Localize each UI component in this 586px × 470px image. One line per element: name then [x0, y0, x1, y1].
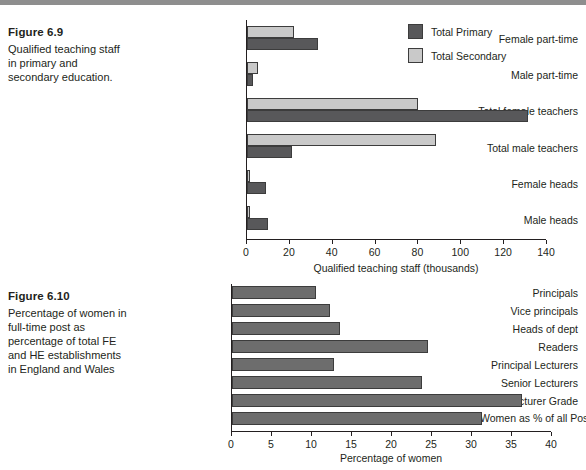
x-tick-label: 5 — [256, 438, 286, 450]
bar-primary-female-part-time — [247, 38, 318, 50]
x-tickmark — [417, 240, 418, 244]
bar-principals — [232, 286, 316, 299]
x-tick-label: 20 — [376, 438, 406, 450]
bar-readers — [232, 340, 428, 353]
bar-principal-lecturers — [232, 358, 334, 371]
x-tick-label: 25 — [416, 438, 446, 450]
x-tickmark — [503, 240, 504, 244]
bar-secondary-total-male-teachers — [247, 134, 436, 146]
x-tick-label: 0 — [216, 438, 246, 450]
bars-6-9 — [247, 26, 547, 240]
bar-senior-lecturers — [232, 376, 422, 389]
figure-6-10-caption: Figure 6.10 Percentage of women in full-… — [8, 290, 128, 376]
x-tickmark — [231, 432, 232, 436]
x-tick-label: 0 — [231, 246, 261, 258]
x-tickmark — [375, 240, 376, 244]
x-tickmark — [391, 432, 392, 436]
x-tickmark — [431, 432, 432, 436]
figure-6-9-description: Qualified teaching staff in primary and … — [8, 42, 128, 84]
figure-6-10-title: Figure 6.10 — [8, 290, 128, 302]
chart-6-9: Total Primary Total Secondary Female par… — [128, 18, 578, 273]
x-tick-label: 100 — [445, 246, 475, 258]
x-tickmark — [460, 240, 461, 244]
top-rule — [0, 0, 586, 5]
bar-secondary-total-female-teachers — [247, 98, 418, 110]
x-tick-label: 140 — [531, 246, 561, 258]
x-axis-title-6-9: Qualified teaching staff (thousands) — [296, 262, 496, 274]
bar-secondary-male-part-time — [247, 62, 258, 74]
bars-6-10 — [232, 286, 552, 432]
x-tickmark — [311, 432, 312, 436]
x-tickmark — [546, 240, 547, 244]
bar-primary-total-male-teachers — [247, 146, 292, 158]
bar-vice-principals — [232, 304, 330, 317]
bar-women-all-posts — [232, 412, 482, 425]
figure-6-9-caption: Figure 6.9 Qualified teaching staff in p… — [8, 26, 128, 84]
chart-6-10: Principals Vice principals Heads of dept… — [128, 282, 578, 464]
x-tickmark — [332, 240, 333, 244]
bar-secondary-female-heads — [247, 170, 250, 182]
x-tickmark — [246, 240, 247, 244]
bar-heads-of-dept — [232, 322, 340, 335]
x-tickmark — [471, 432, 472, 436]
x-tick-label: 40 — [317, 246, 347, 258]
figure-6-9-title: Figure 6.9 — [8, 26, 128, 38]
x-tickmark — [271, 432, 272, 436]
bar-primary-female-heads — [247, 182, 266, 194]
bar-primary-male-part-time — [247, 74, 253, 86]
x-tick-label: 60 — [360, 246, 390, 258]
x-tick-label: 120 — [488, 246, 518, 258]
bar-lecturer-grade — [232, 394, 522, 407]
bar-primary-male-heads — [247, 218, 268, 230]
x-tick-label: 15 — [336, 438, 366, 450]
x-tickmark — [511, 432, 512, 436]
x-tickmark — [289, 240, 290, 244]
x-tickmark — [351, 432, 352, 436]
bar-secondary-female-part-time — [247, 26, 294, 38]
bar-primary-total-female-teachers — [247, 110, 528, 122]
x-axis-title-6-10: Percentage of women — [291, 452, 491, 464]
x-tick-label: 35 — [496, 438, 526, 450]
x-tick-label: 40 — [536, 438, 566, 450]
figure-6-10-description: Percentage of women in full-time post as… — [8, 306, 128, 376]
x-tick-label: 20 — [274, 246, 304, 258]
bar-secondary-male-heads — [247, 206, 250, 218]
x-tick-label: 10 — [296, 438, 326, 450]
x-tick-label: 80 — [402, 246, 432, 258]
x-tickmark — [551, 432, 552, 436]
x-tick-label: 30 — [456, 438, 486, 450]
